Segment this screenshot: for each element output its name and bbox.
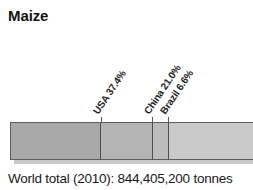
tick-china — [152, 117, 153, 122]
stacked-bar — [10, 122, 253, 160]
tick-usa — [101, 117, 102, 122]
maize-production-chart: Maize USA 37.4% China 21.0% Brazil 6.6% … — [0, 0, 253, 190]
plot-area: USA 37.4% China 21.0% Brazil 6.6% — [0, 0, 253, 190]
world-total-caption: World total (2010): 844,405,200 tonnes — [8, 170, 232, 187]
bar-segment-rest-of-world — [168, 123, 253, 159]
segment-label-usa: USA 37.4% — [91, 68, 128, 116]
tick-brazil — [168, 117, 169, 122]
bar-segment-china — [100, 123, 151, 159]
bar-segment-brazil — [152, 123, 169, 159]
bar-segment-usa — [11, 123, 100, 159]
